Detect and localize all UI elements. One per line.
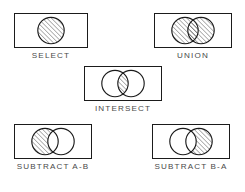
select-venn-graphic: [15, 14, 87, 47]
subtract-b-a-venn-graphic: [153, 125, 229, 158]
region-a-minus-b: [15, 125, 91, 158]
region-b-minus-a: [153, 125, 229, 158]
circle-b: [188, 17, 214, 43]
panel-union-frame: [154, 13, 232, 48]
panel-subtract-b-a-frame: [152, 124, 230, 159]
panel-select: SELECT: [14, 13, 88, 60]
panel-subtract-b-a-label: SUBTRACT B-A: [154, 163, 227, 171]
panel-union: UNION: [154, 13, 232, 60]
circle-a: [38, 17, 64, 43]
panel-intersect-label: INTERSECT: [95, 105, 151, 113]
panel-select-label: SELECT: [32, 52, 70, 60]
intersect-venn-graphic: [85, 67, 161, 100]
panel-intersect-frame: [84, 66, 162, 101]
panel-subtract-a-b: SUBTRACT A-B: [14, 124, 92, 171]
panel-subtract-a-b-frame: [14, 124, 92, 159]
panel-intersect: INTERSECT: [84, 66, 162, 113]
panel-subtract-a-b-label: SUBTRACT A-B: [17, 163, 90, 171]
boolean-operations-diagram: SELECT UNION: [0, 0, 245, 192]
panel-union-label: UNION: [177, 52, 209, 60]
panel-select-frame: [14, 13, 88, 48]
panel-subtract-b-a: SUBTRACT B-A: [152, 124, 230, 171]
subtract-a-b-venn-graphic: [15, 125, 91, 158]
union-venn-graphic: [155, 14, 231, 47]
